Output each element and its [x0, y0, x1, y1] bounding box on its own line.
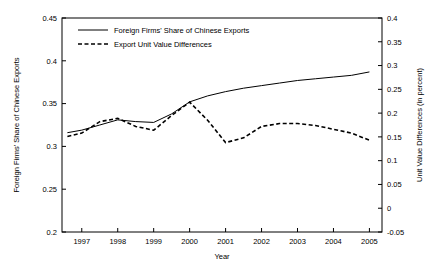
y2-tick-label: 0.25: [387, 85, 402, 94]
chart-legend: Foreign Firms' Share of Chinese ExportsE…: [78, 26, 249, 49]
chart-container: 199719981999200020012002200320042005 0.2…: [0, 0, 434, 271]
y-axis-right-title: Unit Value Differences (in percent): [415, 68, 424, 182]
series-line-1: [67, 102, 369, 142]
y2-tick-label: 0.05: [387, 180, 402, 189]
y-tick-label: 0.25: [42, 185, 57, 194]
legend-label-0: Foreign Firms' Share of Chinese Exports: [114, 26, 249, 35]
y-tick-label: 0.35: [42, 99, 57, 108]
y2-tick-label: -0.05: [387, 228, 404, 237]
x-tick-label: 1998: [109, 237, 126, 246]
x-tick-label: 2001: [217, 237, 234, 246]
series-layer: [67, 72, 369, 143]
x-axis-ticks: 199719981999200020012002200320042005: [73, 228, 377, 246]
series-line-0: [67, 72, 369, 133]
y2-tick-label: 0.15: [387, 133, 402, 142]
x-axis-title: Year: [214, 252, 230, 261]
x-tick-label: 2004: [325, 237, 342, 246]
y-tick-label: 0.3: [47, 142, 57, 151]
y2-tick-label: 0.2: [387, 109, 397, 118]
x-tick-label: 2003: [289, 237, 306, 246]
plot-border: [62, 18, 382, 232]
y2-tick-label: 0: [387, 204, 391, 213]
y-axis-left-title: Foreign Firms' Share of Chinese Exports: [12, 57, 21, 192]
x-tick-label: 1997: [73, 237, 90, 246]
y-tick-label: 0.2: [47, 228, 57, 237]
x-tick-label: 2005: [361, 237, 378, 246]
chart-svg: 199719981999200020012002200320042005 0.2…: [0, 0, 434, 271]
y-tick-label: 0.4: [47, 57, 57, 66]
y2-tick-label: 0.4: [387, 14, 397, 23]
y2-tick-label: 0.3: [387, 61, 397, 70]
x-tick-label: 2000: [181, 237, 198, 246]
legend-label-1: Export Unit Value Differences: [114, 40, 212, 49]
x-tick-label: 1999: [145, 237, 162, 246]
plot-frame: [62, 18, 382, 232]
y2-tick-label: 0.35: [387, 38, 402, 47]
y-tick-label: 0.45: [42, 14, 57, 23]
x-tick-label: 2002: [253, 237, 270, 246]
y2-tick-label: 0.1: [387, 156, 397, 165]
